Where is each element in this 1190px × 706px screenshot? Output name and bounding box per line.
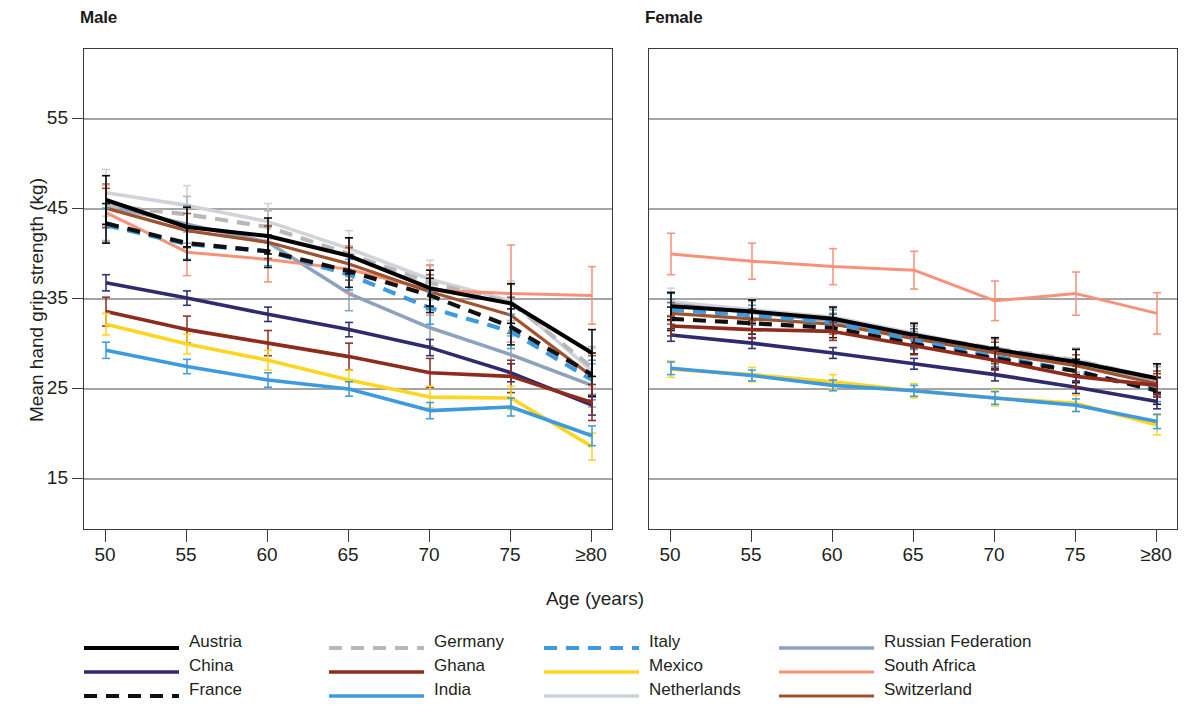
legend-label: China	[189, 656, 233, 676]
legend-label: France	[189, 680, 242, 700]
y-axis-title: Mean hand grip strength (kg)	[26, 100, 48, 500]
x-axis-tick	[1075, 530, 1076, 542]
y-axis-tick	[72, 388, 83, 389]
x-axis-tick-label: 70	[394, 544, 464, 566]
legend-label: Austria	[189, 632, 242, 652]
legend-label: Russian Federation	[884, 632, 1031, 652]
legend-item-switzerland[interactable]: Switzerland	[779, 680, 1104, 700]
x-axis-tick	[832, 530, 833, 542]
legend-item-india[interactable]: India	[329, 680, 544, 700]
y-axis-tick	[72, 118, 83, 119]
x-axis-tick	[913, 530, 914, 542]
x-axis-tick-label: 75	[1040, 544, 1110, 566]
panel-title-male: Male	[80, 8, 117, 28]
legend-label: Italy	[649, 632, 680, 652]
legend: AustriaGermanyItalyRussian FederationChi…	[84, 630, 1104, 704]
legend-label: Germany	[434, 632, 504, 652]
legend-item-italy[interactable]: Italy	[544, 632, 779, 652]
x-axis-title: Age (years)	[0, 588, 1190, 610]
x-axis-tick-label: ≥80	[1121, 544, 1190, 566]
legend-label: Ghana	[434, 656, 485, 676]
plot-area-female	[649, 49, 1178, 530]
legend-item-austria[interactable]: Austria	[84, 632, 329, 652]
legend-item-mexico[interactable]: Mexico	[544, 656, 779, 676]
x-axis-tick-label: 75	[475, 544, 545, 566]
x-axis-tick	[670, 530, 671, 542]
x-axis-tick-label: 60	[232, 544, 302, 566]
x-axis-tick	[994, 530, 995, 542]
legend-label: Mexico	[649, 656, 703, 676]
legend-item-netherlands[interactable]: Netherlands	[544, 680, 779, 700]
legend-label: India	[434, 680, 471, 700]
x-axis-tick-label: 50	[635, 544, 705, 566]
legend-label: South Africa	[884, 656, 976, 676]
panel-title-female: Female	[645, 8, 702, 28]
x-axis-tick-label: 65	[878, 544, 948, 566]
plot-area-male	[84, 49, 613, 530]
legend-label: Netherlands	[649, 680, 741, 700]
legend-item-france[interactable]: France	[84, 680, 329, 700]
x-axis-tick	[1156, 530, 1157, 542]
x-axis-tick-label: 70	[959, 544, 1029, 566]
x-axis-tick	[105, 530, 106, 542]
x-axis-tick	[348, 530, 349, 542]
x-axis-tick-label: 60	[797, 544, 867, 566]
legend-item-south-africa[interactable]: South Africa	[779, 656, 1104, 676]
legend-item-ghana[interactable]: Ghana	[329, 656, 544, 676]
y-axis-tick	[72, 298, 83, 299]
x-axis-tick	[591, 530, 592, 542]
legend-item-russian-federation[interactable]: Russian Federation	[779, 632, 1104, 652]
x-axis-tick	[510, 530, 511, 542]
x-axis-tick-label: ≥80	[556, 544, 626, 566]
x-axis-tick	[267, 530, 268, 542]
legend-label: Switzerland	[884, 680, 972, 700]
x-axis-tick-label: 65	[313, 544, 383, 566]
y-axis-tick	[72, 208, 83, 209]
x-axis-tick	[429, 530, 430, 542]
plot-panel-male	[83, 48, 613, 530]
x-axis-tick-label: 55	[151, 544, 221, 566]
x-axis-tick-label: 55	[716, 544, 786, 566]
plot-panel-female	[648, 48, 1178, 530]
y-axis-tick	[72, 478, 83, 479]
legend-item-germany[interactable]: Germany	[329, 632, 544, 652]
x-axis-tick	[186, 530, 187, 542]
legend-item-china[interactable]: China	[84, 656, 329, 676]
x-axis-tick-label: 50	[70, 544, 140, 566]
x-axis-tick	[751, 530, 752, 542]
grip-strength-figure: Male Female 5545352515505560657075≥80505…	[0, 0, 1190, 706]
